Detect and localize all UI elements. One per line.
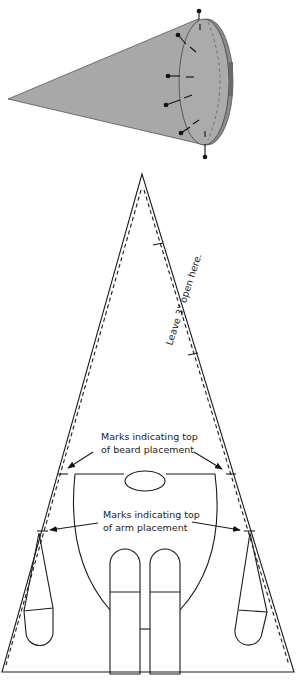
arm-right [235, 533, 267, 645]
cone-illustration [8, 9, 233, 159]
beard-label-line1: Marks indicating top [101, 431, 198, 442]
cone-body [8, 19, 205, 145]
mouth-opening [125, 471, 165, 491]
seam-allowance-right [144, 190, 289, 665]
seam-allowance-left [6, 190, 141, 665]
leg-right [150, 549, 180, 674]
beard-shape [73, 474, 217, 610]
open-mark-top [153, 243, 163, 245]
arm-label-line1: Marks indicating top [103, 509, 200, 520]
cone-opening [229, 62, 233, 96]
cone-base [179, 19, 229, 145]
leg-left [110, 549, 140, 674]
pattern-diagram [2, 174, 294, 674]
pattern-outline [2, 174, 294, 672]
beard-arrow-right [194, 452, 222, 469]
figure-canvas: Leave 3" open here. Marks indicating top… [0, 0, 302, 686]
arm-label-line2: of arm placement [103, 522, 188, 533]
beard-arrow-left [68, 452, 93, 468]
beard-label-line2: of beard placement [101, 444, 194, 455]
leave-open-label: Leave 3" open here. [163, 252, 203, 347]
